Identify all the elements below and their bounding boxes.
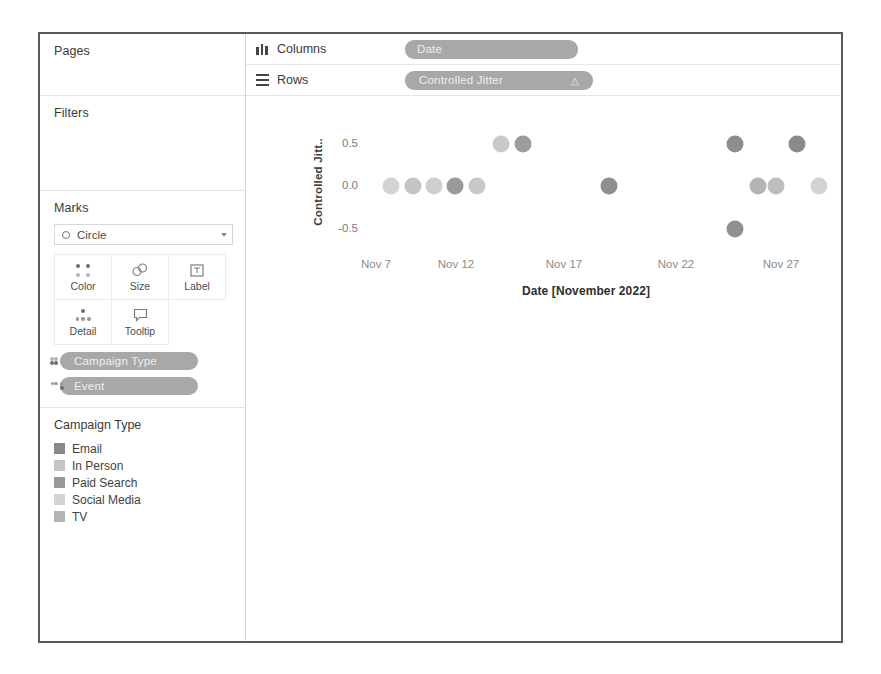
size-circles-icon — [132, 263, 148, 278]
legend-color-swatch — [54, 511, 65, 522]
rows-shelf[interactable]: Rows Controlled Jitter △ — [246, 65, 841, 96]
rows-icon — [256, 74, 270, 86]
marks-color-label: Color — [70, 281, 95, 292]
marks-size-label: Size — [130, 281, 150, 292]
scatter-point[interactable] — [383, 178, 400, 195]
legend-color-swatch — [54, 477, 65, 488]
marks-pill-campaign-type[interactable]: Campaign Type — [60, 352, 198, 370]
legend-item[interactable]: TV — [54, 508, 233, 525]
scatter-point[interactable] — [727, 220, 744, 237]
marks-detail-button[interactable]: Detail — [55, 300, 112, 345]
filters-card-title: Filters — [54, 106, 233, 120]
scatter-point[interactable] — [493, 135, 510, 152]
marks-grid-empty-cell — [169, 300, 226, 345]
legend-item[interactable]: Paid Search — [54, 474, 233, 491]
scatter-point[interactable] — [469, 178, 486, 195]
legend-item-label: Email — [72, 442, 102, 456]
color-legend-card: Campaign Type EmailIn PersonPaid SearchS… — [40, 408, 245, 641]
marks-card-title: Marks — [54, 201, 233, 215]
mark-type-select[interactable]: Circle — [54, 224, 233, 245]
legend-item[interactable]: Social Media — [54, 491, 233, 508]
scatter-point[interactable] — [727, 135, 744, 152]
marks-label-label: Label — [184, 281, 210, 292]
legend-color-swatch — [54, 443, 65, 454]
legend-item[interactable]: Email — [54, 440, 233, 457]
x-axis-tick-label: Nov 7 — [341, 258, 411, 270]
filters-card[interactable]: Filters — [40, 96, 245, 191]
columns-shelf[interactable]: Columns Date — [246, 34, 841, 65]
marks-tooltip-button[interactable]: Tooltip — [112, 300, 169, 345]
columns-icon — [256, 43, 270, 55]
marks-property-grid: Color Size — [54, 254, 226, 345]
legend-item-label: TV — [72, 510, 87, 524]
pages-card-title: Pages — [54, 44, 233, 58]
scatter-point[interactable] — [405, 178, 422, 195]
scatter-point[interactable] — [811, 178, 828, 195]
tooltip-bubble-icon — [133, 308, 148, 323]
mark-type-value: Circle — [77, 229, 221, 241]
color-legend-items: EmailIn PersonPaid SearchSocial MediaTV — [54, 440, 233, 525]
y-axis-title: Controlled Jitt.. — [312, 138, 324, 248]
chart-canvas[interactable]: 0.50.0-0.5Controlled Jitt..Nov 7Nov 12No… — [246, 96, 841, 641]
marks-pill-campaign-type-row: Campaign Type — [54, 352, 233, 370]
marks-size-button[interactable]: Size — [112, 255, 169, 300]
scatter-point[interactable] — [447, 178, 464, 195]
scatter-point[interactable] — [768, 178, 785, 195]
scatter-point[interactable] — [515, 135, 532, 152]
pages-card[interactable]: Pages — [40, 34, 245, 96]
marks-tooltip-label: Tooltip — [125, 326, 155, 337]
y-axis-tick-label: -0.5 — [324, 222, 358, 234]
columns-shelf-label: Columns — [277, 42, 405, 56]
x-axis-tick-label: Nov 27 — [746, 258, 816, 270]
color-dots-icon — [76, 263, 90, 278]
y-axis-tick-label: 0.0 — [324, 179, 358, 191]
worksheet-view: Columns Date Rows Controlled Jitter △ 0.… — [246, 34, 841, 641]
detail-dots-icon — [76, 308, 91, 323]
scatter-point[interactable] — [789, 135, 806, 152]
color-legend-title: Campaign Type — [54, 418, 233, 432]
legend-color-swatch — [54, 494, 65, 505]
tableau-worksheet-window: Pages Filters Marks Circle Color — [38, 32, 843, 643]
x-axis-tick-label: Nov 12 — [421, 258, 491, 270]
columns-pill-date[interactable]: Date — [405, 40, 578, 59]
circle-icon — [62, 231, 70, 239]
marks-card: Marks Circle Color — [40, 191, 245, 408]
label-box-icon — [190, 263, 204, 278]
x-axis-tick-label: Nov 22 — [641, 258, 711, 270]
legend-item-label: Social Media — [72, 493, 141, 507]
marks-pill-event-row: Event — [54, 377, 233, 395]
scatter-point[interactable] — [601, 178, 618, 195]
scatter-point[interactable] — [750, 178, 767, 195]
y-axis-tick-label: 0.5 — [324, 137, 358, 149]
legend-color-swatch — [54, 460, 65, 471]
x-axis-tick-label: Nov 17 — [529, 258, 599, 270]
marks-color-button[interactable]: Color — [55, 255, 112, 300]
rows-pill-label: Controlled Jitter — [419, 71, 503, 90]
scatter-point[interactable] — [426, 178, 443, 195]
marks-detail-label: Detail — [70, 326, 97, 337]
legend-item[interactable]: In Person — [54, 457, 233, 474]
sort-triangle-icon: △ — [571, 71, 579, 90]
marks-pill-event[interactable]: Event — [60, 377, 198, 395]
rows-shelf-label: Rows — [277, 73, 405, 87]
marks-label-button[interactable]: Label — [169, 255, 226, 300]
left-sidebar: Pages Filters Marks Circle Color — [40, 34, 246, 641]
legend-item-label: Paid Search — [72, 476, 137, 490]
rows-pill-controlled-jitter[interactable]: Controlled Jitter △ — [405, 71, 593, 90]
chevron-down-icon[interactable] — [221, 233, 227, 237]
x-axis-title: Date [November 2022] — [326, 284, 843, 298]
legend-item-label: In Person — [72, 459, 123, 473]
